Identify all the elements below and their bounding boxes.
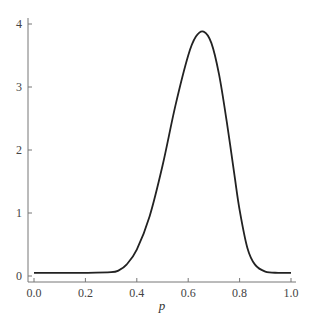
y-tick-label: 0	[16, 269, 22, 283]
y-tick-label: 3	[16, 80, 22, 94]
x-tick-label: 1.0	[284, 286, 299, 300]
axes	[28, 18, 296, 282]
y-tick-label: 1	[16, 206, 22, 220]
y-tick-label: 2	[16, 143, 22, 157]
x-axis-label: p	[158, 298, 166, 313]
x-tick-label: 0.8	[232, 286, 247, 300]
ticks: 0.00.20.40.60.81.001234	[16, 17, 299, 300]
x-tick-label: 0.4	[129, 286, 144, 300]
y-tick-label: 4	[16, 17, 22, 31]
x-tick-label: 0.2	[78, 286, 93, 300]
x-tick-label: 0.6	[181, 286, 196, 300]
density-curve	[34, 31, 291, 273]
x-tick-label: 0.0	[27, 286, 42, 300]
chart: 0.00.20.40.60.81.001234 p	[0, 0, 313, 326]
